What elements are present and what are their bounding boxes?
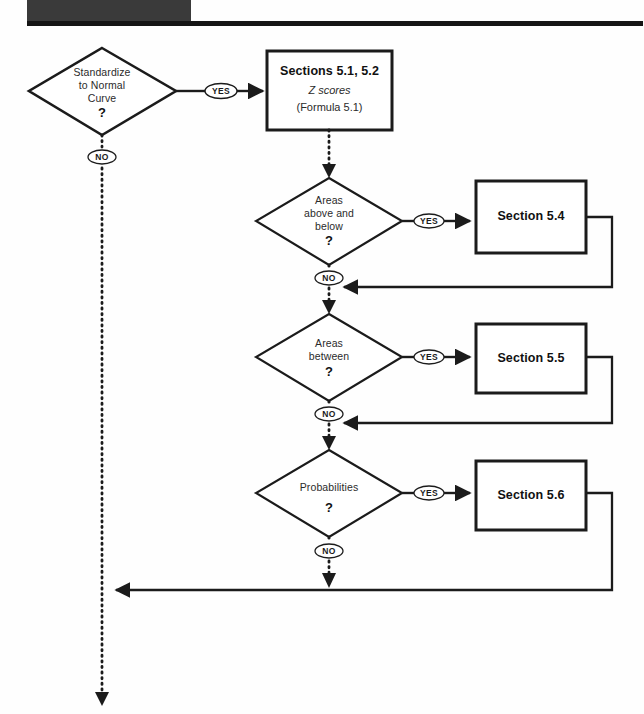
pill-yes-probabilities [414, 486, 444, 500]
pill-yes-standardize [205, 84, 237, 99]
decision-diamond-standardize [29, 48, 176, 135]
flowchart-canvas: Standardize to Normal Curve ? YES NO Sec… [0, 0, 644, 714]
arrowhead-no-above-below [322, 300, 336, 314]
pill-no-above-below [315, 271, 343, 285]
decision-diamond-probabilities [256, 450, 402, 537]
decision-diamond-areas-between [256, 314, 402, 401]
arrowhead-no-probabilities [322, 573, 336, 588]
pill-yes-above-below [414, 214, 444, 228]
decision-diamond-areas-above-below [256, 178, 402, 265]
process-box-section-5-6 [476, 461, 586, 530]
arrowhead-no-standardize-end [95, 692, 109, 706]
pill-no-between [315, 407, 343, 421]
process-box-sections-5-1-5-2 [267, 51, 392, 130]
arrowhead-no-between [322, 436, 336, 450]
process-box-section-5-4 [476, 181, 586, 253]
flowchart-graphics [0, 0, 644, 714]
pill-yes-between [414, 350, 444, 364]
pill-no-standardize [88, 150, 116, 164]
arrowhead-box1-to-diamond2 [322, 164, 336, 178]
process-box-section-5-5 [476, 324, 586, 393]
pill-no-probabilities [315, 544, 343, 558]
